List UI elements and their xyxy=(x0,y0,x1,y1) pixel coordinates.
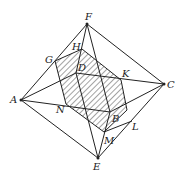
label-K: K xyxy=(121,68,130,79)
label-N: N xyxy=(55,104,66,115)
label-D: D xyxy=(77,62,86,73)
label-A: A xyxy=(9,94,17,105)
label-M: M xyxy=(103,135,115,146)
label-B: B xyxy=(111,113,119,124)
label-H: H xyxy=(71,41,81,52)
octahedron-diagram: FHGDKCANBLME xyxy=(0,0,183,182)
label-C: C xyxy=(167,79,175,90)
diagram-canvas: FHGDKCANBLME xyxy=(0,0,183,182)
label-E: E xyxy=(92,161,101,172)
label-G: G xyxy=(45,54,53,65)
label-L: L xyxy=(131,121,139,132)
label-F: F xyxy=(84,11,93,22)
